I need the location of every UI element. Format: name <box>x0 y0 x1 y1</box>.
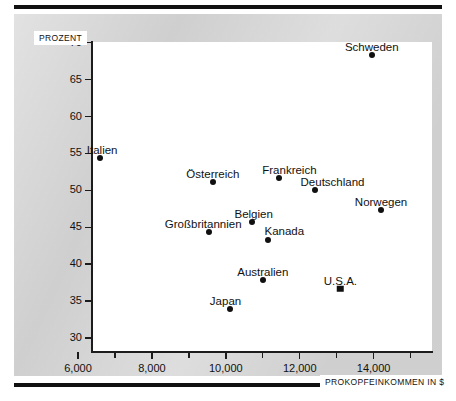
y-tick <box>85 337 92 338</box>
y-tick-label-text: 40 <box>38 258 82 269</box>
y-tick <box>85 300 92 301</box>
x-tick-major <box>77 352 78 359</box>
x-tick-minor <box>336 352 337 358</box>
x-axis-title: PROKOPFEINKOMMEN IN $ <box>320 375 449 389</box>
data-point-label: Großbritannien <box>165 218 242 230</box>
top-rule <box>14 5 442 9</box>
x-tick-major <box>299 352 300 359</box>
x-tick-major <box>373 352 374 359</box>
y-tick-label-text: 60 <box>38 111 82 122</box>
figure-root: 303540455055606570 6,0008,00010,00012,00… <box>0 0 456 401</box>
y-tick <box>85 116 92 117</box>
x-tick-label: 8,000 <box>122 362 182 374</box>
data-point-label: Schweden <box>345 41 399 53</box>
y-tick <box>85 263 92 264</box>
y-tick-label-text: 55 <box>38 147 82 158</box>
y-axis-line <box>91 41 93 353</box>
y-tick <box>85 227 92 228</box>
x-tick-minor <box>262 352 263 358</box>
x-tick-minor <box>114 352 115 358</box>
y-tick <box>85 79 92 80</box>
x-tick-label: 10,000 <box>196 362 256 374</box>
data-point-label: Österreich <box>186 168 239 180</box>
figure-panel: 303540455055606570 6,0008,00010,00012,00… <box>14 14 442 376</box>
x-tick-major <box>225 352 226 359</box>
data-point-label: Deutschland <box>301 176 365 188</box>
x-tick-major <box>151 352 152 359</box>
y-tick-label-text: 45 <box>38 221 82 232</box>
y-tick <box>85 190 92 191</box>
y-axis-title: PROZENT <box>34 31 87 45</box>
x-tick-label: 6,000 <box>48 362 108 374</box>
data-point-label: Japan <box>210 295 241 307</box>
x-tick-minor <box>188 352 189 358</box>
y-tick-label-text: 30 <box>38 332 82 343</box>
data-point-marker <box>265 237 271 243</box>
data-point-label: Norwegen <box>355 196 407 208</box>
data-point-label: Frankreich <box>262 164 316 176</box>
x-tick-label: 12,000 <box>270 362 330 374</box>
data-point-label: Australien <box>237 266 288 278</box>
data-point-label: Kanada <box>264 225 304 237</box>
y-tick-label-text: 35 <box>38 295 82 306</box>
y-tick-label-text: 65 <box>38 74 82 85</box>
x-tick-minor <box>410 352 411 358</box>
y-tick-label-text: 50 <box>38 184 82 195</box>
data-point-label: U.S.A. <box>324 275 357 287</box>
x-tick-label: 14,000 <box>344 362 404 374</box>
data-point-label: Italien <box>87 144 118 156</box>
